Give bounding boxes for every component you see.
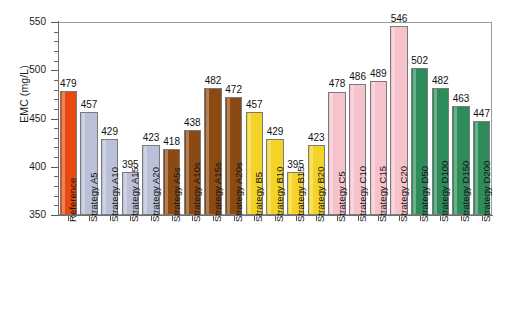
y-tick-minor (54, 205, 58, 206)
y-tick-minor (54, 61, 58, 62)
x-axis-category-text: Strategy A20s (233, 162, 244, 222)
bar-highlight (103, 140, 106, 214)
bar-highlight (351, 85, 354, 214)
bar-value-label: 457 (73, 100, 105, 110)
bar-highlight (392, 27, 395, 214)
x-axis-category-text: Strategy A20 (150, 167, 161, 222)
bar-highlight (310, 146, 313, 214)
x-axis-category-text: Strategy A10 (109, 167, 120, 222)
y-tick-minor (54, 51, 58, 52)
bar-value-label: 482 (197, 76, 229, 86)
bar-value-label: 429 (94, 127, 126, 137)
x-axis-category-text: Strategy D200 (481, 161, 492, 222)
y-axis-tick-label: 350 (8, 211, 46, 219)
y-tick-major (51, 70, 58, 71)
emc-bar-chart: EMC (mg/L) 350400450500550 4794574293954… (0, 0, 510, 313)
x-axis-category-text: Strategy D150 (460, 161, 471, 222)
y-axis-tick-label: 550 (8, 18, 46, 26)
bar-highlight (475, 122, 478, 214)
bar-highlight (454, 107, 457, 214)
bar-highlight (330, 93, 333, 215)
bar-highlight (289, 173, 292, 214)
y-axis-tick-label: 450 (8, 115, 46, 123)
y-tick-major (51, 119, 58, 120)
bar-highlight (62, 92, 65, 215)
x-axis-category-text: Strategy B15 (295, 166, 306, 222)
bar-value-label: 457 (238, 100, 270, 110)
bar-highlight (186, 131, 189, 214)
bar-highlight (248, 113, 251, 214)
x-axis-category-text: Strategy D50 (419, 166, 430, 222)
x-axis-category-text: Strategy A5 (88, 172, 99, 222)
bar-value-label: 463 (445, 94, 477, 104)
x-axis-category-text: Strategy C5 (336, 171, 347, 222)
x-axis-category-text: Strategy A10s (191, 162, 202, 222)
y-tick-minor (54, 41, 58, 42)
x-axis-category-text: Strategy B10 (274, 166, 285, 222)
y-axis-tick-label: 400 (8, 163, 46, 171)
y-tick-minor (54, 109, 58, 110)
x-axis-category-text: Strategy A5s (171, 168, 182, 222)
y-tick-minor (54, 196, 58, 197)
x-axis-category-text: Strategy C10 (357, 166, 368, 222)
y-tick-minor (54, 128, 58, 129)
bar-value-label: 479 (52, 79, 84, 89)
x-axis-category-text: Strategy A15 (129, 167, 140, 222)
y-tick-minor (54, 138, 58, 139)
bar-highlight (268, 140, 271, 214)
y-tick-minor (54, 176, 58, 177)
x-axis-category-text: Strategy D100 (439, 161, 450, 222)
bar-value-label: 546 (383, 14, 415, 24)
bar-value-label: 502 (404, 56, 436, 66)
y-tick-minor (54, 90, 58, 91)
y-tick-minor (54, 147, 58, 148)
y-tick-minor (54, 99, 58, 100)
bar-highlight (124, 173, 127, 214)
x-axis-category-text: Reference (67, 178, 78, 222)
bar-highlight (413, 69, 416, 214)
bar-value-label: 472 (218, 85, 250, 95)
x-axis-category-text: Strategy A15s (212, 162, 223, 222)
x-axis-category-text: Strategy B20 (315, 166, 326, 222)
y-axis-title: EMC (mg/L) (18, 34, 30, 154)
y-tick-major (51, 22, 58, 23)
y-tick-minor (54, 32, 58, 33)
bar-highlight (227, 98, 230, 214)
x-axis-category-text: Strategy C15 (377, 166, 388, 222)
bar-highlight (82, 113, 85, 214)
y-axis-tick-label: 500 (8, 66, 46, 74)
y-tick-major (51, 167, 58, 168)
bar-highlight (372, 82, 375, 214)
bar-value-label: 429 (259, 127, 291, 137)
bar-highlight (434, 89, 437, 214)
x-axis-category-text: Strategy C20 (398, 166, 409, 222)
bar-value-label: 447 (466, 109, 498, 119)
bar-highlight (165, 150, 168, 214)
y-tick-minor (54, 157, 58, 158)
bar-value-label: 482 (424, 76, 456, 86)
x-axis-category-text: Strategy B5 (253, 172, 264, 222)
bar-highlight (144, 146, 147, 214)
y-tick-minor (54, 186, 58, 187)
y-tick-major (51, 215, 58, 216)
bar-highlight (206, 89, 209, 214)
